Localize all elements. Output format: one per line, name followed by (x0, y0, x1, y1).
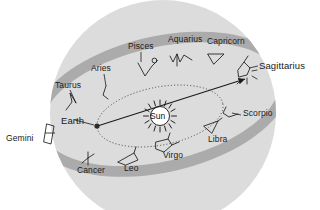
label-gemini: Gemini (6, 134, 34, 143)
label-libra: Libra (208, 135, 227, 144)
label-cancer: Cancer (77, 166, 105, 175)
label-taurus: Taurus (55, 81, 81, 90)
label-capricorn: Capricorn (207, 37, 245, 46)
earth-dot (94, 123, 99, 128)
label-aquarius: Aquarius (168, 35, 202, 44)
label-leo: Leo (124, 164, 138, 173)
label-sagittarius: Sagittarius (259, 61, 305, 71)
label-sun: Sun (150, 112, 165, 121)
label-aries: Aries (91, 64, 111, 73)
label-scorpio: Scorpio (243, 109, 273, 118)
diagram-canvas: Earth Sun Pisces Aquarius Capricorn Sagi… (0, 0, 320, 210)
label-earth: Earth (61, 116, 84, 126)
label-pisces: Pisces (128, 42, 154, 51)
label-virgo: Virgo (163, 151, 183, 160)
zodiac-ecliptic-diagram (0, 0, 320, 210)
